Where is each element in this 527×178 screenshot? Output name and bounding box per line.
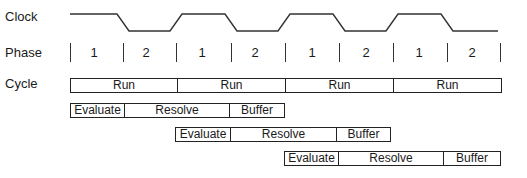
phase-number: 2 [462,45,482,60]
cycle-run: Run [71,79,178,92]
pipeline-2: Evaluate Resolve Buffer [175,127,391,142]
phase-tick [500,43,501,62]
phase-number: 1 [409,45,429,60]
stage-buffer: Buffer [337,128,390,141]
phase-tick [285,43,286,62]
phase-tick [231,43,232,62]
phase-tick [447,43,448,62]
stage-evaluate: Evaluate [176,128,231,141]
phase-number: 1 [192,45,212,60]
stage-resolve: Resolve [339,152,444,165]
pipeline-1: Evaluate Resolve Buffer [70,103,285,118]
phase-tick [339,43,340,62]
stage-buffer: Buffer [444,152,500,165]
phase-number: 2 [136,45,156,60]
phase-tick [393,43,394,62]
stage-evaluate: Evaluate [285,152,339,165]
stage-buffer: Buffer [230,104,284,117]
phase-tick [176,43,177,62]
phase-tick [123,43,124,62]
stage-evaluate: Evaluate [71,104,125,117]
phase-number: 2 [245,45,265,60]
cycle-run: Run [178,79,286,92]
cycle-run: Run [286,79,394,92]
cycle-run: Run [394,79,501,92]
phase-number: 1 [84,45,104,60]
phase-tick [70,43,71,62]
phase-number: 1 [302,45,322,60]
cycle-bar: Run Run Run Run [70,78,502,93]
phase-number: 2 [356,45,376,60]
pipeline-3: Evaluate Resolve Buffer [284,151,501,166]
stage-resolve: Resolve [231,128,337,141]
stage-resolve: Resolve [125,104,230,117]
